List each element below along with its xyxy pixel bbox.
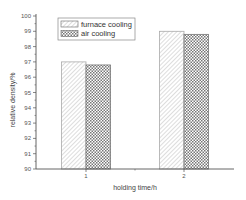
bar xyxy=(184,34,209,169)
legend-swatch xyxy=(61,31,78,37)
bar xyxy=(86,65,111,169)
legend-swatch xyxy=(61,21,78,27)
y-tick-label: 97 xyxy=(24,59,31,65)
y-tick-label: 93 xyxy=(24,120,31,126)
bar-chart: 9091929394959697989910012 furnace coolin… xyxy=(0,0,246,200)
y-tick-label: 100 xyxy=(21,13,32,19)
legend: furnace coolingair cooling xyxy=(58,18,135,40)
y-tick-label: 98 xyxy=(24,44,31,50)
y-tick-label: 95 xyxy=(24,90,31,96)
y-tick-label: 92 xyxy=(24,135,31,141)
y-tick-label: 99 xyxy=(24,28,31,34)
y-tick-label: 90 xyxy=(24,166,31,172)
y-tick-label: 91 xyxy=(24,151,31,157)
x-tick-label: 2 xyxy=(182,173,186,179)
bars-group xyxy=(62,31,209,169)
bar xyxy=(160,31,185,169)
x-tick-label: 1 xyxy=(84,173,88,179)
legend-label: air cooling xyxy=(81,29,115,38)
y-tick-label: 94 xyxy=(24,105,31,111)
bar xyxy=(62,62,87,169)
x-axis-label: holding time/h xyxy=(113,184,157,192)
legend-label: furnace cooling xyxy=(81,20,132,29)
y-axis-label: relative density/% xyxy=(9,73,17,128)
y-tick-label: 96 xyxy=(24,74,31,80)
